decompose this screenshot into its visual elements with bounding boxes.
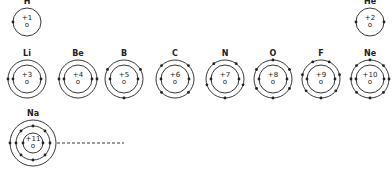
electron-dot	[369, 97, 372, 100]
electron-dot	[383, 78, 386, 81]
electron-dot	[96, 78, 99, 81]
electron-dot	[139, 68, 142, 71]
electron-dot	[187, 64, 190, 67]
electron-dot	[106, 68, 109, 71]
nucleus-charge: +7o	[215, 72, 235, 86]
element-symbol: F	[301, 49, 341, 58]
electron-dot	[286, 78, 289, 81]
element-symbol: B	[104, 49, 144, 58]
electron-dot	[235, 62, 238, 65]
electron-dot	[44, 130, 47, 133]
electron-dot	[44, 154, 47, 157]
electron-dot	[188, 78, 191, 81]
electron-dot	[255, 87, 258, 90]
electron-dot	[338, 73, 341, 76]
nucleus-charge: +4o	[68, 72, 88, 86]
nucleus-charge: +6o	[165, 72, 185, 86]
element-symbol: Na	[13, 109, 53, 118]
electron-dot	[383, 21, 386, 24]
electron-dot	[369, 59, 372, 62]
electron-dot	[311, 60, 314, 63]
nucleus-charge: +10o	[360, 72, 380, 86]
electron-dot	[9, 142, 12, 145]
electron-dot	[91, 78, 94, 81]
nucleus-charge: +9o	[311, 72, 331, 86]
electron-dot	[355, 64, 358, 67]
electron-dot	[7, 78, 10, 81]
electron-dot	[160, 78, 163, 81]
electron-dot	[238, 78, 241, 81]
element-symbol: H	[7, 0, 47, 6]
electron-dot	[388, 78, 391, 81]
nucleus-charge: +11o	[23, 136, 43, 150]
electron-dot	[255, 68, 258, 71]
electron-dot	[49, 142, 52, 145]
electron-dot	[306, 78, 309, 81]
electron-dot	[32, 125, 35, 128]
electron-dot	[272, 59, 275, 62]
electron-dot	[187, 91, 190, 94]
electron-dot	[58, 78, 61, 81]
electron-dot	[20, 130, 23, 133]
electron-dot	[12, 78, 15, 81]
electron-dot	[210, 78, 213, 81]
electron-dot	[334, 89, 337, 92]
electron-dot	[288, 68, 291, 71]
electron-dot	[137, 78, 140, 81]
electron-dot	[109, 78, 112, 81]
electron-dot	[212, 62, 215, 65]
electron-dot	[20, 154, 23, 157]
electron-dot	[272, 97, 275, 100]
nucleus-charge: +2o	[360, 15, 380, 29]
electron-dot	[15, 142, 18, 145]
electron-dot	[320, 97, 323, 100]
electron-dot	[382, 64, 385, 67]
electron-dot	[12, 21, 15, 24]
electron-dot	[355, 78, 358, 81]
electron-dot	[32, 159, 35, 162]
electron-dot	[334, 78, 337, 81]
electron-dot	[305, 89, 308, 92]
nucleus-charge: +1o	[17, 15, 37, 29]
diagram-canvas	[0, 0, 392, 178]
electron-dot	[123, 97, 126, 100]
electron-dot	[258, 78, 261, 81]
electron-dot	[224, 97, 227, 100]
element-symbol: Li	[7, 49, 47, 58]
electron-dot	[328, 60, 331, 63]
element-symbol: Ne	[350, 49, 390, 58]
electron-dot	[63, 78, 66, 81]
electron-dot	[355, 91, 358, 94]
electron-dot	[382, 91, 385, 94]
electron-dot	[160, 91, 163, 94]
nucleus-charge: +8o	[263, 72, 283, 86]
nucleus-charge: +3o	[17, 72, 37, 86]
electron-dot	[355, 21, 358, 24]
electron-dot	[301, 73, 304, 76]
element-symbol: C	[155, 49, 195, 58]
electron-dot	[206, 83, 209, 86]
atom-diagram: H+1oHe+2oLi+3oBe+4oB+5oC+6oN+7oO+8oF+9oN…	[0, 0, 392, 178]
electron-dot	[288, 87, 291, 90]
electron-dot	[40, 78, 43, 81]
nucleus-charge: +5o	[114, 72, 134, 86]
element-symbol: Be	[58, 49, 98, 58]
electron-dot	[350, 78, 353, 81]
electron-dot	[242, 83, 245, 86]
element-symbol: N	[205, 49, 245, 58]
element-symbol: He	[350, 0, 390, 6]
electron-dot	[160, 64, 163, 67]
element-symbol: O	[253, 49, 293, 58]
